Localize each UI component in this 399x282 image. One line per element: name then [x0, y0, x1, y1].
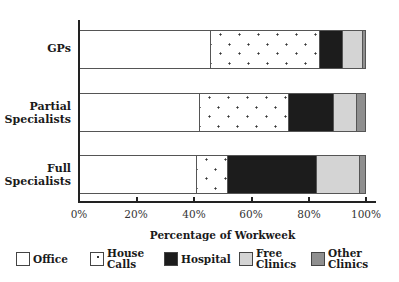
segment-other-clinics	[357, 94, 366, 131]
segment-hospital	[289, 94, 335, 131]
legend-swatch-house-calls	[90, 252, 104, 266]
legend-label: Other Clinics	[328, 248, 368, 270]
legend-item-house-calls: House Calls	[90, 248, 144, 270]
segment-free-clinics	[343, 31, 363, 68]
legend-item-other-clinics: Other Clinics	[311, 248, 368, 270]
x-axis	[78, 201, 376, 203]
segment-office	[79, 94, 200, 131]
legend-swatch-other-clinics	[311, 252, 325, 266]
segment-house-calls	[211, 31, 320, 68]
segment-house-calls	[197, 156, 229, 193]
x-tick	[136, 197, 138, 202]
segment-other-clinics	[363, 31, 366, 68]
x-tick-label: 80%	[289, 208, 329, 220]
segment-office	[79, 156, 197, 193]
x-tick-label: 40%	[174, 208, 214, 220]
x-tick-label: 100%	[346, 208, 386, 220]
segment-house-calls	[200, 94, 289, 131]
stacked-bar-chart: GPs Partial Specialists Full Specialists…	[0, 0, 399, 282]
bar-full-specialists	[79, 155, 366, 194]
segment-hospital	[228, 156, 317, 193]
segment-hospital	[320, 31, 343, 68]
x-tick	[251, 197, 253, 202]
legend-label: Hospital	[181, 254, 231, 265]
segment-office	[79, 31, 211, 68]
legend-label: Office	[33, 254, 68, 265]
legend-label: Free Clinics	[256, 248, 296, 270]
legend: Office House Calls Hospital Free Clinics…	[16, 248, 396, 278]
x-tick-label: 0%	[59, 208, 99, 220]
legend-item-free-clinics: Free Clinics	[239, 248, 296, 270]
segment-other-clinics	[360, 156, 366, 193]
legend-item-hospital: Hospital	[164, 252, 231, 266]
x-tick-label: 20%	[116, 208, 156, 220]
x-axis-title: Percentage of Workweek	[79, 229, 366, 241]
legend-swatch-office	[16, 252, 30, 266]
category-label-full-specialists: Full Specialists	[5, 162, 71, 188]
y-axis	[78, 20, 80, 202]
x-tick	[365, 197, 367, 202]
legend-swatch-free-clinics	[239, 252, 253, 266]
category-label-partial-specialists: Partial Specialists	[5, 100, 71, 126]
x-tick-label: 60%	[231, 208, 271, 220]
legend-item-office: Office	[16, 252, 68, 266]
legend-swatch-hospital	[164, 252, 178, 266]
segment-free-clinics	[334, 94, 357, 131]
segment-free-clinics	[317, 156, 360, 193]
bar-gps	[79, 30, 366, 69]
legend-label: House Calls	[107, 248, 144, 270]
category-label-gps: GPs	[47, 42, 71, 55]
bar-partial-specialists	[79, 93, 366, 132]
x-tick	[308, 197, 310, 202]
x-tick	[193, 197, 195, 202]
